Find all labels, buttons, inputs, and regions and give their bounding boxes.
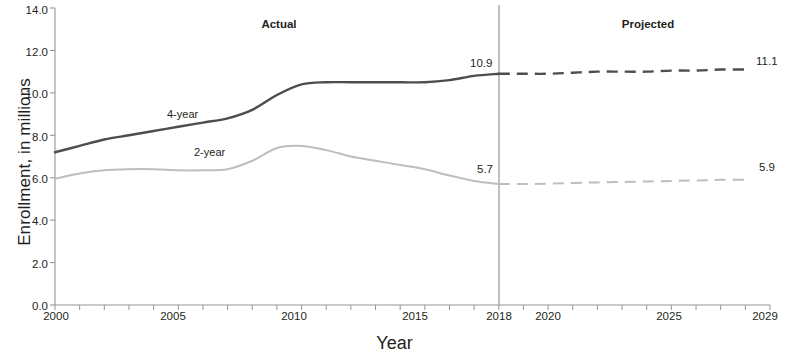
x-tick-label: 2029 bbox=[735, 310, 789, 322]
x-tick-label: 2025 bbox=[639, 310, 699, 322]
y-tick-label: 12.0 bbox=[4, 46, 48, 58]
value-label-2-year-projected: 5.9 bbox=[759, 161, 775, 173]
axis-lines bbox=[55, 8, 770, 305]
y-tick-label: 14.0 bbox=[4, 4, 48, 16]
series-label-2-year: 2-year bbox=[194, 146, 225, 158]
x-tick-label: 2010 bbox=[264, 310, 324, 322]
y-axis-title: Enrollment, in millions bbox=[15, 32, 35, 292]
chart-plot-area bbox=[0, 0, 789, 363]
line-2-year-actual bbox=[55, 146, 499, 184]
period-label-projected: Projected bbox=[588, 18, 708, 30]
y-tick-label: 10.0 bbox=[4, 88, 48, 100]
value-label-2-year-actual: 5.7 bbox=[477, 163, 493, 175]
y-tick-label: 2.0 bbox=[4, 258, 48, 270]
y-tick-label: 4.0 bbox=[4, 215, 48, 227]
line-4-year-projected bbox=[499, 69, 746, 73]
line-4-year-actual bbox=[55, 74, 499, 152]
period-label-actual: Actual bbox=[219, 18, 339, 30]
y-tick-label: 6.0 bbox=[4, 173, 48, 185]
value-label-4-year-projected: 11.1 bbox=[756, 55, 778, 67]
x-tick-label: 2000 bbox=[26, 310, 86, 322]
series-label-4-year: 4-year bbox=[167, 108, 198, 120]
y-tick-marks bbox=[50, 8, 55, 305]
x-axis-title: Year bbox=[0, 333, 789, 354]
chart-figure: Enrollment, in millions Year 14.0 12.0 1… bbox=[0, 0, 789, 363]
x-tick-label: 2020 bbox=[518, 310, 578, 322]
x-tick-label: 2015 bbox=[385, 310, 445, 322]
x-tick-label: 2005 bbox=[143, 310, 203, 322]
line-2-year-projected bbox=[499, 180, 746, 184]
y-tick-label: 8.0 bbox=[4, 131, 48, 143]
value-label-4-year-actual: 10.9 bbox=[470, 57, 492, 69]
